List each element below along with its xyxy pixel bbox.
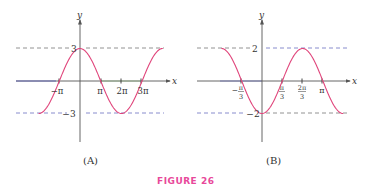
figure-caption: FIGURE 26 xyxy=(157,176,214,186)
figure-canvas: y x 3 −3 −π π 2π 3π y x 2 −2 − π 3 xyxy=(0,0,367,191)
svg-text:3: 3 xyxy=(280,93,284,101)
x-tick-pi: π xyxy=(319,86,324,95)
y-tick-2: 2 xyxy=(252,44,258,54)
x-tick-pi-over-3: π 3 xyxy=(279,84,285,101)
svg-text:3: 3 xyxy=(300,93,304,101)
svg-text:3: 3 xyxy=(239,93,243,101)
panel-a-label: (A) xyxy=(83,155,98,166)
y-tick-neg3: −3 xyxy=(62,109,76,119)
panel-b-label: (B) xyxy=(266,155,281,166)
x-tick-3pi: 3π xyxy=(138,86,149,96)
plot-b: y x 2 −2 − π 3 π 3 2π 3 π xyxy=(197,10,357,142)
x-tick-2pi: 2π xyxy=(117,86,128,96)
x-tick-neg-pi: −π xyxy=(51,86,64,96)
x-axis-label: x xyxy=(172,76,177,86)
plot-a: y x 3 −3 −π π 2π 3π xyxy=(16,10,177,142)
svg-text:−: − xyxy=(232,86,238,95)
x-tick-neg-pi-over-3: − π 3 xyxy=(232,84,244,101)
svg-text:2π: 2π xyxy=(298,84,307,92)
x-tick-pi: π xyxy=(97,86,103,96)
svg-text:π: π xyxy=(280,84,285,92)
y-axis-label: y xyxy=(258,10,265,20)
x-axis-label: x xyxy=(352,76,357,86)
x-tick-2pi-over-3: 2π 3 xyxy=(298,84,307,101)
y-tick-3: 3 xyxy=(71,44,77,54)
svg-text:π: π xyxy=(239,84,244,92)
y-tick-neg2: −2 xyxy=(246,109,259,119)
y-axis-label: y xyxy=(76,10,83,20)
